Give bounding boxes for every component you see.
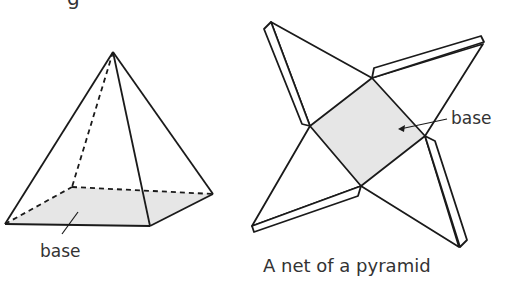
pyramid-base-label: base [40,241,81,261]
net-flap-bottom-left [252,186,361,232]
net-flap-top-left [264,22,310,126]
net-flap-top-right [372,36,484,78]
net-base-square [310,78,425,186]
net-caption: A net of a pyramid [263,255,431,276]
pyramid-3d [5,52,213,234]
pyramid-net [252,22,484,247]
net-base-label: base [451,108,492,128]
